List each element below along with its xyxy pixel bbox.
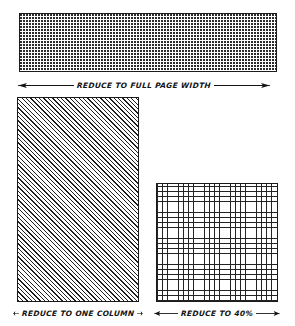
figure-block-one-column xyxy=(17,97,139,302)
arrow-left-icon xyxy=(153,309,178,318)
figure-block-full-page-width xyxy=(19,13,277,72)
figure-block-forty-percent xyxy=(156,183,278,302)
arrow-right-icon xyxy=(256,309,281,318)
caption-forty-percent: REDUCE TO 40% xyxy=(153,306,281,320)
caption-text: REDUCE TO FULL PAGE WIDTH xyxy=(74,81,215,90)
figure-reduction-sheet: REDUCE TO FULL PAGE WIDTH REDUCE TO ONE … xyxy=(0,0,295,326)
arrow-left-icon xyxy=(16,81,74,90)
caption-text: REDUCE TO 40% xyxy=(178,309,257,318)
arrow-right-icon xyxy=(214,81,272,90)
caption-one-column: REDUCE TO ONE COLUMN xyxy=(14,306,142,320)
caption-full-page-width: REDUCE TO FULL PAGE WIDTH xyxy=(16,78,272,92)
caption-text: REDUCE TO ONE COLUMN xyxy=(18,309,137,318)
arrow-right-icon xyxy=(137,309,143,318)
